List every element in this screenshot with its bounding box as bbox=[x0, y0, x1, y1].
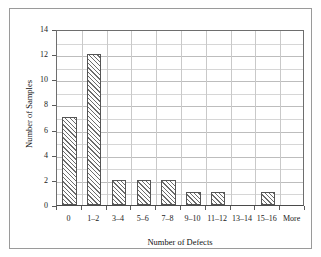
x-tick-mark bbox=[254, 206, 255, 210]
y-tick-label: 14 bbox=[22, 26, 48, 34]
figure-outer-frame: 02468101214 01–23–45–67–89–1011–1213–141… bbox=[9, 8, 312, 249]
y-tick-mark bbox=[52, 105, 56, 106]
bar-3-4 bbox=[112, 180, 126, 205]
bars-layer bbox=[57, 31, 303, 205]
bar-0 bbox=[62, 117, 76, 205]
x-tick-mark bbox=[130, 206, 131, 210]
bar-7-8 bbox=[161, 180, 175, 205]
x-tick-mark bbox=[106, 206, 107, 210]
y-tick-mark bbox=[52, 55, 56, 56]
y-tick-mark bbox=[52, 30, 56, 31]
x-tick-mark bbox=[279, 206, 280, 210]
bar-1-2 bbox=[87, 54, 101, 205]
x-tick-mark bbox=[304, 206, 305, 210]
y-tick-label: 0 bbox=[22, 202, 48, 210]
x-tick-mark bbox=[81, 206, 82, 210]
x-tick-label: More bbox=[273, 214, 310, 223]
x-tick-mark bbox=[230, 206, 231, 210]
y-tick-mark bbox=[52, 181, 56, 182]
plot-area bbox=[56, 30, 304, 206]
bar-15-16 bbox=[261, 192, 275, 205]
y-axis-title: Number of Samples bbox=[24, 54, 34, 174]
histogram-figure: 02468101214 01–23–45–67–89–1011–1213–141… bbox=[0, 0, 321, 257]
bar-9-10 bbox=[186, 192, 200, 205]
x-tick-mark bbox=[155, 206, 156, 210]
y-tick-mark bbox=[52, 156, 56, 157]
y-tick-label: 2 bbox=[22, 177, 48, 185]
bar-11-12 bbox=[211, 192, 225, 205]
y-tick-mark bbox=[52, 131, 56, 132]
x-tick-mark bbox=[205, 206, 206, 210]
x-tick-mark bbox=[56, 206, 57, 210]
y-tick-mark bbox=[52, 80, 56, 81]
bar-5-6 bbox=[137, 180, 151, 205]
x-tick-mark bbox=[180, 206, 181, 210]
x-axis-title: Number of Defects bbox=[56, 237, 304, 247]
